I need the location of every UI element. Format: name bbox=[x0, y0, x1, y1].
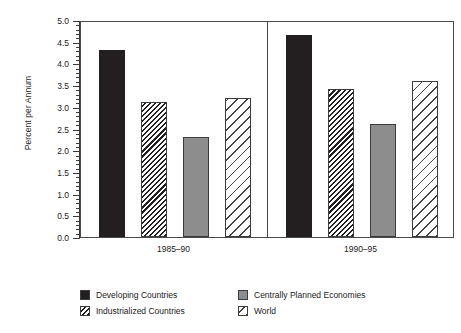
y-axis-tick-major bbox=[73, 21, 80, 22]
y-axis-tick-label: 2.5 bbox=[57, 126, 69, 135]
legend-swatch-icon bbox=[80, 290, 90, 300]
bar bbox=[99, 50, 125, 237]
y-axis-tick-label: 2.0 bbox=[57, 147, 69, 156]
y-axis-tick-major bbox=[73, 64, 80, 65]
legend-label: Industrialized Countries bbox=[96, 307, 185, 316]
y-axis-tick-label: 3.5 bbox=[57, 82, 69, 91]
y-axis-tick-major bbox=[73, 151, 80, 152]
plot-area bbox=[80, 21, 454, 238]
y-axis-tick-label: 0.0 bbox=[57, 234, 69, 243]
y-axis-tick-label: 4.5 bbox=[57, 39, 69, 48]
x-axis-group-label-0: 1985–90 bbox=[80, 244, 267, 254]
y-axis-tick-major bbox=[73, 86, 80, 87]
y-axis-tick-major bbox=[73, 108, 80, 109]
legend-item: Centrally Planned Economies bbox=[238, 287, 454, 303]
bar bbox=[141, 102, 167, 237]
legend-item: World bbox=[238, 303, 454, 319]
y-axis-tick-major bbox=[73, 195, 80, 196]
legend-item: Industrialized Countries bbox=[80, 303, 228, 319]
bar bbox=[183, 137, 209, 237]
group-divider bbox=[267, 22, 268, 237]
bar bbox=[286, 35, 312, 237]
y-axis-tick-label: 0.5 bbox=[57, 212, 69, 221]
bar bbox=[412, 81, 438, 237]
bar bbox=[328, 89, 354, 237]
y-axis: 0.00.51.01.52.02.53.03.54.04.55.0 bbox=[0, 21, 80, 238]
y-axis-tick-major bbox=[73, 216, 80, 217]
legend-label: Developing Countries bbox=[96, 291, 177, 300]
legend-label: World bbox=[254, 307, 276, 316]
legend-label: Centrally Planned Economies bbox=[254, 291, 366, 300]
legend-swatch-icon bbox=[80, 306, 90, 316]
legend-item: Developing Countries bbox=[80, 287, 228, 303]
y-axis-tick-label: 1.0 bbox=[57, 191, 69, 200]
bar bbox=[225, 98, 251, 237]
bar-chart: Percent per Annum 0.00.51.01.52.02.53.03… bbox=[0, 0, 461, 333]
y-axis-tick-major bbox=[73, 43, 80, 44]
y-axis-tick-label: 4.0 bbox=[57, 60, 69, 69]
x-axis-group-label-1: 1990–95 bbox=[267, 244, 454, 254]
legend-swatch-icon bbox=[238, 290, 248, 300]
y-axis-tick-major bbox=[73, 130, 80, 131]
legend: Developing CountriesCentrally Planned Ec… bbox=[80, 287, 454, 319]
y-axis-tick-major bbox=[73, 173, 80, 174]
y-axis-tick-major bbox=[73, 238, 80, 239]
legend-swatch-icon bbox=[238, 306, 248, 316]
y-axis-tick-label: 5.0 bbox=[57, 17, 69, 26]
y-axis-tick-label: 1.5 bbox=[57, 169, 69, 178]
bar bbox=[370, 124, 396, 237]
y-axis-tick-label: 3.0 bbox=[57, 104, 69, 113]
